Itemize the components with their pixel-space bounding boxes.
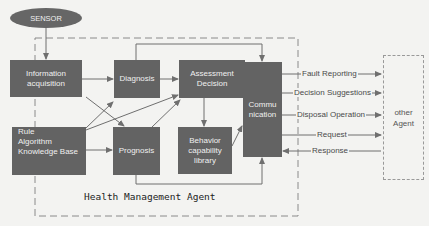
message-response: Response xyxy=(311,146,349,155)
sensor-label: SENSOR xyxy=(30,14,62,23)
message-request: Request xyxy=(316,130,348,139)
assessment-decision-node: Assessment Decision xyxy=(179,60,245,98)
message-decision-suggestions: Decision Suggestions xyxy=(293,88,372,97)
other-agent-node: other Agent xyxy=(383,55,424,180)
info-acq-line2: acquisition xyxy=(27,79,65,89)
rule-line1: Rule xyxy=(18,127,34,137)
rule-line2: Algorithm xyxy=(18,137,52,147)
behavior-line1: Behavior xyxy=(189,136,221,146)
diagnosis-node: Diagnosis xyxy=(114,60,160,98)
information-acquisition-node: Information acquisition xyxy=(10,60,82,97)
diagnosis-label: Diagnosis xyxy=(119,74,154,84)
prognosis-label: Prognosis xyxy=(119,146,155,156)
other-agent-line1: other xyxy=(394,107,412,118)
diagram-canvas: SENSOR Information acquisition Diagnosis… xyxy=(0,0,429,226)
message-disposal-operation: Disposal Operation xyxy=(296,110,366,119)
communication-line2: nication xyxy=(249,110,277,120)
assessment-line1: Assessment xyxy=(190,69,234,79)
rule-line3: Knowledge Base xyxy=(18,147,78,157)
diagram-title: Health Management Agent xyxy=(84,191,216,202)
assessment-line2: Decision xyxy=(197,79,228,89)
communication-line1: Commu xyxy=(248,100,276,110)
sensor-node: SENSOR xyxy=(10,8,82,28)
rule-knowledge-base-node: Rule Algorithm Knowledge Base xyxy=(12,127,86,175)
behavior-capability-library-node: Behavior capability library xyxy=(178,127,232,174)
prognosis-node: Prognosis xyxy=(113,127,160,175)
info-acq-line1: Information xyxy=(26,69,66,79)
behavior-line2: capability xyxy=(188,146,221,156)
behavior-line3: library xyxy=(194,156,216,166)
message-fault-reporting: Fault Reporting xyxy=(301,69,358,78)
other-agent-line2: Agent xyxy=(393,118,414,129)
communication-node: Commu nication xyxy=(243,62,282,157)
